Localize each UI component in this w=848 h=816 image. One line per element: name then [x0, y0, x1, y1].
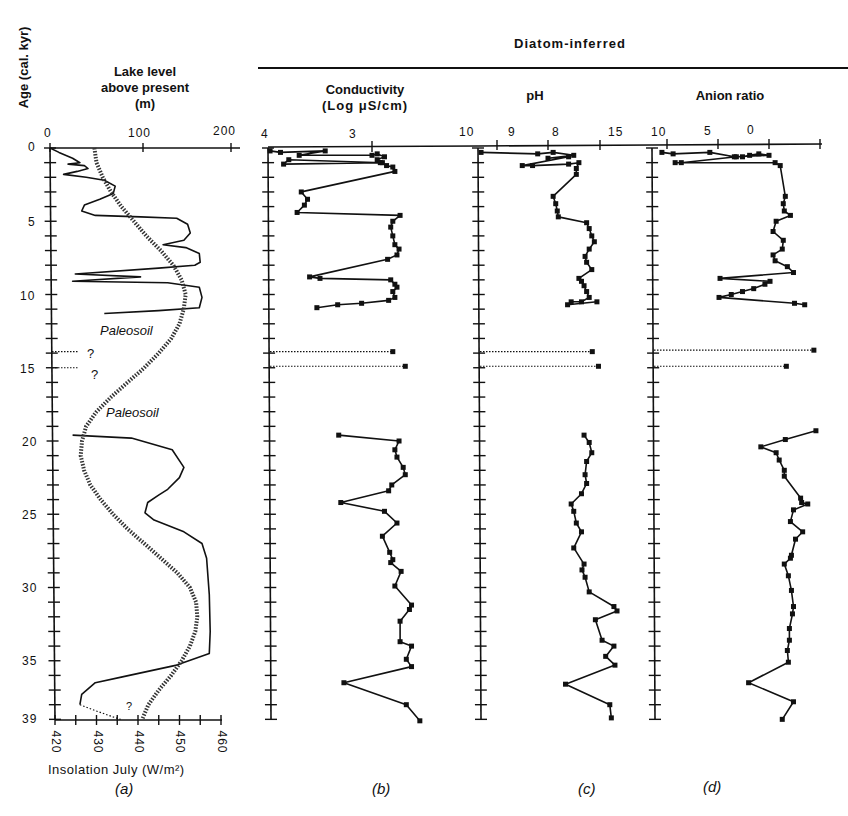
panel-c-marker — [584, 459, 589, 464]
insolation-tick: 450 — [173, 730, 187, 753]
panel-b-marker — [295, 210, 300, 215]
panel-b-marker — [407, 607, 412, 612]
panel-d-title: Anion ratio — [660, 88, 800, 104]
panel-b-marker — [268, 148, 273, 153]
panel-b-marker — [397, 247, 402, 252]
panel-b-marker — [281, 162, 286, 167]
panel-d-marker — [783, 437, 788, 442]
panel-d-marker — [788, 556, 793, 561]
panel-c-title: pH — [505, 88, 565, 104]
panel-d-marker — [785, 264, 790, 269]
panel-b-marker — [323, 148, 328, 153]
panel-b-marker — [388, 225, 393, 230]
panel-b-marker — [359, 301, 364, 306]
panel-d-marker — [747, 153, 752, 158]
panel-d-marker — [788, 519, 793, 524]
panel-c-marker — [579, 567, 584, 572]
panel-c-marker — [565, 302, 570, 307]
panel-c-marker — [574, 166, 579, 171]
panel-c-marker — [520, 163, 525, 168]
panel-c-marker — [583, 575, 588, 580]
panel-d-marker — [788, 213, 793, 218]
panel-b-marker — [387, 550, 392, 555]
panel-d-marker — [791, 604, 796, 609]
panel-d-marker — [773, 258, 778, 263]
panel-a-title-line: Lake level — [60, 64, 230, 80]
panel-b-marker — [314, 305, 319, 310]
panel-b-marker — [394, 455, 399, 460]
panel-c-marker — [589, 267, 594, 272]
panel-c-marker — [553, 201, 558, 206]
panel-d-marker — [756, 151, 761, 156]
panel-d-top-tick: 10 — [651, 125, 666, 139]
age-tick: 10 — [20, 289, 35, 303]
panel-c-marker — [563, 682, 568, 687]
panel-b-marker — [380, 534, 385, 539]
age-tick: 5 — [28, 215, 36, 229]
panel-c-marker — [582, 283, 587, 288]
panel-b-marker — [286, 157, 291, 162]
panel-b-marker — [404, 657, 409, 662]
panel-b-series-line — [270, 151, 400, 308]
insolation-curve — [81, 148, 198, 719]
panel-d-marker — [767, 153, 772, 158]
panel-c-marker — [600, 638, 605, 643]
panel-d-marker — [762, 282, 767, 287]
age-axis-label: Age (cal. kyr) — [16, 13, 31, 123]
panel-c-marker — [607, 702, 612, 707]
panel-b-marker — [370, 153, 375, 158]
panel-a-title-line: above present — [60, 80, 230, 96]
panel-d-marker — [790, 611, 795, 616]
panel-b-marker — [307, 274, 312, 279]
panel-b-marker — [390, 219, 395, 224]
panel-d-marker — [718, 276, 723, 281]
panel-b-marker — [398, 639, 403, 644]
panel-b-marker — [398, 619, 403, 624]
panel-d-marker — [659, 150, 664, 155]
panel-c-marker — [479, 150, 484, 155]
panel-b-marker — [404, 702, 409, 707]
panel-b-marker — [399, 569, 404, 574]
age-tick: 30 — [22, 581, 37, 595]
panel-d-marker — [782, 208, 787, 213]
panel-b-marker — [397, 439, 402, 444]
panel-a-title: Lake level above present (m) — [60, 64, 230, 112]
panel-b-marker — [392, 169, 397, 174]
panel-d-marker — [793, 537, 798, 542]
panel-b-marker — [375, 151, 380, 156]
panel-b-marker — [392, 295, 397, 300]
panel-d-marker — [780, 247, 785, 252]
panel-b-marker — [341, 680, 346, 685]
panel-d-marker — [792, 301, 797, 306]
panel-tag-d: (d) — [703, 778, 721, 795]
panel-b-marker — [392, 447, 397, 452]
panel-b-title-line: Conductivity — [290, 82, 440, 98]
panel-b-marker — [335, 302, 340, 307]
axes-layer — [44, 68, 848, 725]
panel-d-marker — [791, 270, 796, 275]
panel-b-axis — [268, 148, 271, 719]
panel-b-marker — [338, 500, 343, 505]
panel-c-marker — [583, 472, 588, 477]
panel-c-marker — [556, 214, 561, 219]
panel-d-marker — [798, 496, 803, 501]
panel-d-marker — [707, 150, 712, 155]
panel-d-marker — [729, 292, 734, 297]
panel-c-marker — [576, 160, 581, 165]
panel-c-marker — [569, 501, 574, 506]
insolation-tick: 430 — [91, 730, 105, 753]
panel-b-marker — [382, 154, 387, 159]
panel-b-marker — [398, 213, 403, 218]
panel-b-marker — [386, 488, 391, 493]
panel-b-marker — [403, 472, 408, 477]
panel-d-marker — [781, 238, 786, 243]
panel-d-marker — [782, 562, 787, 567]
panel-d-marker — [774, 450, 779, 455]
panel-d-marker — [791, 699, 796, 704]
panel-b-marker — [394, 285, 399, 290]
panel-a-title-line: (m) — [60, 96, 230, 112]
panel-c-marker — [584, 260, 589, 265]
panel-b-marker — [390, 289, 395, 294]
panel-d-top-tick: 5 — [704, 124, 712, 138]
age-tick: 20 — [22, 435, 37, 449]
